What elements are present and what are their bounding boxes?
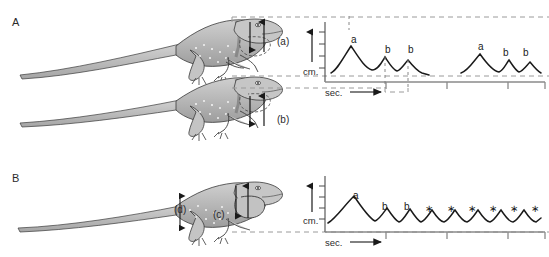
wave-peak-label: b [408,44,414,55]
wave-peak-label: b [385,44,391,55]
figure-root: A B (a) (b) (d) (c) cm. sec. cm. sec. ab… [0,0,549,257]
lizard-illustration-b [20,77,283,141]
top-chart-guides [349,16,408,88]
panel-label-b: B [12,172,20,184]
figure-artwork [0,0,549,257]
wave-peak-label: b [503,47,509,58]
wave-peak-label: b [523,47,529,58]
wave-peak-label: ∗ [531,203,539,214]
top-chart-axes [312,22,545,92]
wave-peak-label: ∗ [447,203,455,214]
body-height-label-d: (d) [174,204,186,215]
wave-peak-label: a [478,41,484,52]
wave-peak-label: ∗ [468,203,476,214]
wave-peak-label: ∗ [425,203,433,214]
top-chart-xlabel: sec. [325,87,342,98]
bottom-chart-xlabel: sec. [325,237,342,248]
dewlap-label-c: (c) [213,209,225,220]
trace-burst-1 [331,46,429,75]
wave-peak-label: b [382,201,388,212]
wave-peak-label: ∗ [489,203,497,214]
top-chart-ylabel: cm. [303,66,318,77]
panel-label-a: A [12,16,20,28]
lizard-illustration-a [20,19,283,85]
lizard-illustration-d [18,182,283,246]
displacement-label-a: (a) [277,36,289,47]
bottom-chart-ylabel: cm. [303,215,318,226]
displacement-label-b: (b) [277,114,289,125]
wave-peak-label: a [353,190,359,201]
trace-burst-2 [461,54,541,73]
wave-peak-label: b [404,201,410,212]
top-chart-traces [331,46,541,75]
wave-peak-label: a [351,34,357,45]
wave-peak-label: ∗ [510,203,518,214]
